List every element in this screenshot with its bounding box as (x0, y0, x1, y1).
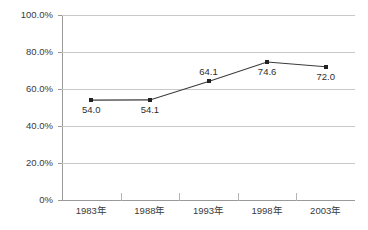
data-point-label: 64.1 (179, 66, 239, 77)
data-point-label: 72.0 (296, 71, 356, 82)
data-point-marker (89, 98, 93, 102)
line-chart: 100.0%80.0%60.0%40.0%20.0%0% 1983年1988年1… (0, 0, 368, 230)
series-line (0, 0, 368, 230)
data-point-label: 74.6 (237, 66, 297, 77)
data-point-marker (148, 98, 152, 102)
data-point-marker (207, 79, 211, 83)
data-point-marker (324, 65, 328, 69)
data-point-label: 54.0 (61, 104, 121, 115)
data-point-label: 54.1 (120, 104, 180, 115)
data-point-marker (265, 60, 269, 64)
